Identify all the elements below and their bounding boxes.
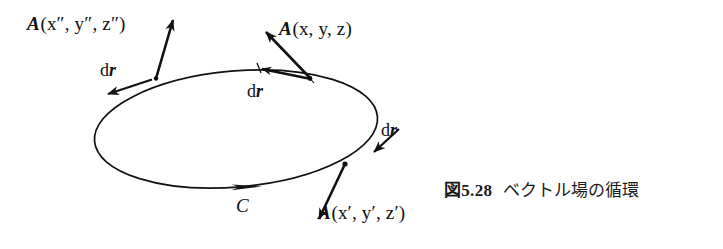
label-dr-r: r bbox=[390, 120, 397, 140]
vector-A-at-x2-y2-z2 bbox=[156, 20, 173, 79]
label-dr-d: d bbox=[381, 120, 390, 140]
caption-text: ベクトル場の循環 bbox=[503, 181, 639, 200]
label-dr-right: dr bbox=[381, 121, 397, 139]
label-A-at-x2-y2-z2: A(x″, y″, z″) bbox=[27, 14, 126, 33]
label-dr-d: d bbox=[100, 60, 109, 80]
label-A-args: (x, y, z) bbox=[292, 18, 352, 39]
label-A-symbol: A bbox=[279, 18, 292, 39]
label-curve-C: C bbox=[236, 196, 249, 215]
label-A-symbol: A bbox=[318, 202, 331, 223]
vector-dr-left bbox=[108, 80, 152, 95]
label-A-at-x1-y1-z1: A(x′, y′, z′) bbox=[318, 203, 405, 222]
label-dr-d: d bbox=[247, 81, 256, 101]
figure-page: A(x″, y″, z″) A(x, y, z) A(x′, y′, z′) d… bbox=[0, 0, 723, 249]
label-dr-r: r bbox=[109, 60, 116, 80]
label-A-symbol: A bbox=[27, 13, 40, 34]
caption-prefix: 図 bbox=[444, 181, 461, 200]
label-dr-r: r bbox=[256, 81, 263, 101]
figure-caption: 図5.28ベクトル場の循環 bbox=[444, 182, 639, 199]
label-A-args: (x′, y′, z′) bbox=[331, 202, 405, 223]
label-A-args: (x″, y″, z″) bbox=[40, 13, 125, 34]
label-dr-top: dr bbox=[247, 82, 263, 100]
label-dr-left: dr bbox=[100, 61, 116, 79]
label-A-at-x-y-z: A(x, y, z) bbox=[279, 19, 352, 38]
caption-number: 5.28 bbox=[461, 181, 492, 200]
